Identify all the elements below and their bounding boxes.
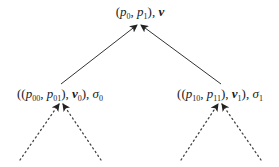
root-node-label: (p0, p1), v [116,5,164,19]
subscript: 1 [259,94,263,103]
paren: ), [242,86,253,101]
diagram-edges [0,0,279,167]
subscript: 10 [192,94,200,103]
paren: (( [17,86,26,101]
dotted-edge-right-right [222,104,261,160]
paren: ), [148,4,159,19]
paren: ), [61,86,72,101]
dotted-edge-right-left [181,104,218,160]
paren: (( [177,86,186,101]
edge-left-child-to-root [61,25,137,84]
subscript: 0 [99,94,103,103]
dotted-edge-left-right [63,104,101,160]
paren: ), [221,86,232,101]
subscript: 00 [32,94,40,103]
left-child-node-label: ((p00, p01), v0), σ0 [17,87,103,101]
subscript: 01 [53,94,61,103]
subscript: 11 [213,94,221,103]
symbol-v: v [158,4,164,19]
right-child-node-label: ((p10, p11), v1), σ1 [177,87,263,101]
dotted-edge-left-left [20,104,59,160]
paren: ), [82,86,93,101]
edge-right-child-to-root [141,25,221,84]
tree-diagram: (p0, p1), v ((p00, p01), v0), σ0 ((p10, … [0,0,279,167]
